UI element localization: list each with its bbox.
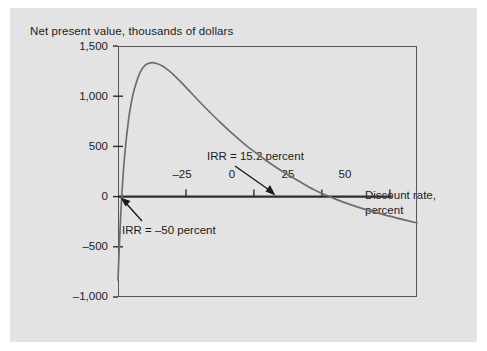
figure-panel: Net present value, thousands of dollars … bbox=[10, 8, 477, 342]
arrow-irr-positive bbox=[235, 166, 276, 196]
chart-svg bbox=[10, 8, 477, 342]
figure-inner: Net present value, thousands of dollars … bbox=[10, 8, 477, 342]
arrow-irr-negative bbox=[121, 198, 143, 222]
npv-curve bbox=[118, 63, 417, 280]
